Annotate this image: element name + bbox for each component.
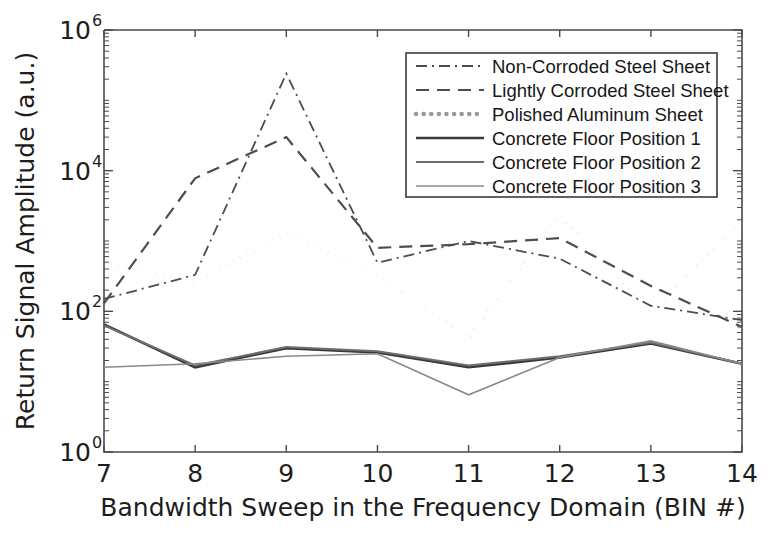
x-tick-label: 10 <box>362 459 394 488</box>
series-line <box>104 341 742 395</box>
legend-label: Concrete Floor Position 1 <box>492 128 701 149</box>
x-tick-label: 11 <box>453 459 485 488</box>
y-tick-label: 106 <box>59 11 102 45</box>
x-tick-label: 7 <box>96 459 112 488</box>
x-tick-label: 9 <box>278 459 294 488</box>
x-tick-label: 12 <box>544 459 576 488</box>
series-line <box>104 216 742 338</box>
y-axis-title: Return Signal Amplitude (a.u.) <box>11 52 40 430</box>
x-tick-label: 14 <box>726 459 758 488</box>
y-tick-label-exponent: 2 <box>92 292 102 311</box>
legend-label: Concrete Floor Position 3 <box>492 176 701 197</box>
legend-label: Lightly Corroded Steel Sheet <box>492 80 729 101</box>
legend-group[interactable]: Non-Corroded Steel SheetLightly Corroded… <box>406 53 729 197</box>
y-tick-label-base: 10 <box>59 16 91 45</box>
x-tick-label: 8 <box>187 459 203 488</box>
x-axis-title: Bandwidth Sweep in the Frequency Domain … <box>100 493 745 522</box>
y-tick-label-base: 10 <box>59 157 91 186</box>
y-tick-label: 104 <box>59 152 102 186</box>
y-tick-label-exponent: 0 <box>92 433 102 452</box>
legend-label: Concrete Floor Position 2 <box>492 152 701 173</box>
y-tick-label-exponent: 6 <box>92 11 102 30</box>
chart-figure: Non-Corroded Steel SheetLightly Corroded… <box>0 0 773 539</box>
x-tick-label: 13 <box>635 459 667 488</box>
legend-label: Non-Corroded Steel Sheet <box>492 56 710 77</box>
y-tick-label: 102 <box>59 292 102 326</box>
series-line <box>104 324 742 367</box>
y-tick-label-exponent: 4 <box>92 152 102 171</box>
y-tick-label-base: 10 <box>59 297 91 326</box>
legend-label: Polished Aluminum Sheet <box>492 104 703 125</box>
chart-svg: Non-Corroded Steel SheetLightly Corroded… <box>0 0 773 539</box>
y-tick-label-base: 10 <box>59 438 91 467</box>
